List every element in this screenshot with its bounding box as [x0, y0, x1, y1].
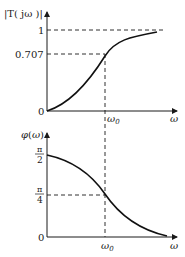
- magnitude-x-label: ω: [170, 113, 178, 124]
- ytick-pi-over-4: π 4: [35, 185, 44, 205]
- ytick-pi-over-2: π 2: [35, 145, 44, 165]
- frequency-response-figure: |T( jω )| 1 0.707 0 ω0 ω φ(ω) π 2 π 4 0 …: [0, 0, 185, 257]
- ytick-0707: 0.707: [15, 49, 44, 60]
- ytick-1: 1: [38, 25, 44, 36]
- phase-y-label: φ(ω): [21, 129, 44, 140]
- xtick-omega0-top: ω0: [107, 113, 120, 126]
- magnitude-y-label: |T( jω )|: [4, 8, 43, 20]
- svg-text:π: π: [37, 185, 42, 194]
- magnitude-curve: [47, 32, 157, 111]
- phase-curve: [47, 155, 167, 236]
- ytick-0-top: 0: [38, 106, 44, 117]
- svg-text:π: π: [37, 145, 42, 154]
- magnitude-plot: |T( jω )| 1 0.707 0 ω0 ω: [4, 8, 178, 126]
- phase-plot: φ(ω) π 2 π 4 0 ω0 ω: [21, 129, 178, 253]
- svg-text:4: 4: [37, 195, 43, 205]
- svg-text:2: 2: [37, 155, 43, 165]
- ytick-0-bottom: 0: [38, 232, 44, 243]
- xtick-omega0-bottom: ω0: [101, 240, 114, 253]
- phase-x-label: ω: [170, 240, 178, 251]
